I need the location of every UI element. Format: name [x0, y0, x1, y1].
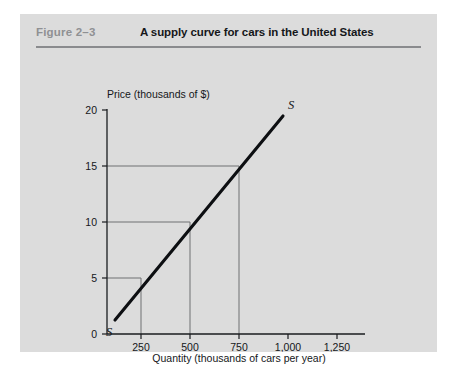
y-axis-ticks: [102, 110, 107, 334]
figure-panel: Figure 2–3 A supply curve for cars in th…: [20, 14, 437, 352]
x-axis-title-wrap: Quantity (thousands of cars per year): [20, 350, 437, 374]
x-axis-title: Quantity (thousands of cars per year): [152, 352, 325, 364]
figure-number-label: Figure 2–3: [36, 26, 96, 38]
supply-curve-label-upper: S: [288, 98, 295, 112]
chart-plot-area: 20 15 10 5 0 250 500 750 1,000 1,250 Pri…: [20, 54, 437, 352]
figure-header: Figure 2–3 A supply curve for cars in th…: [20, 14, 437, 54]
y-axis-title: Price (thousands of $): [107, 88, 210, 100]
header-divider: [36, 46, 421, 48]
x-axis-ticks: [141, 334, 337, 339]
figure-title: A supply curve for cars in the United St…: [140, 26, 374, 38]
y-tick-label-10: 10: [85, 216, 97, 228]
supply-curve-line: [115, 116, 283, 320]
y-axis-tick-labels: 20 15 10 5 0: [85, 104, 97, 340]
supply-curve-label-lower: S: [106, 325, 113, 339]
y-tick-label-20: 20: [85, 104, 97, 116]
supply-curve-chart: 20 15 10 5 0 250 500 750 1,000 1,250 Pri…: [20, 54, 437, 352]
y-tick-label-15: 15: [85, 160, 97, 172]
y-tick-label-5: 5: [91, 272, 97, 284]
y-tick-label-0: 0: [91, 328, 97, 340]
